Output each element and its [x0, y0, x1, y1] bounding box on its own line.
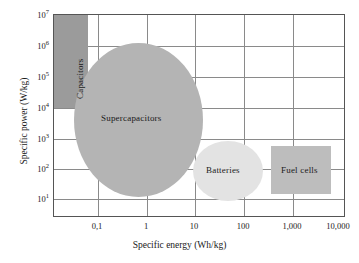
ytick-1e5: 105 [27, 70, 49, 82]
ytick-1e2-exponent: 2 [46, 162, 49, 169]
ytick-1e6-exponent: 6 [46, 39, 49, 46]
ytick-1e1-mantissa: 10 [37, 194, 46, 204]
plot-area: Capacitors Supercapacitors Batteries Fue… [53, 14, 345, 217]
gridline-y-1e6 [54, 46, 344, 47]
ytick-1e4-mantissa: 10 [37, 103, 46, 113]
region-label-batteries: Batteries [206, 165, 240, 175]
ytick-1e3: 103 [27, 132, 49, 144]
ytick-1e1: 101 [27, 192, 49, 204]
ytick-1e6: 106 [27, 39, 49, 51]
ytick-1e3-mantissa: 10 [37, 134, 46, 144]
xtick-100: 100 [237, 221, 250, 231]
ytick-1e5-mantissa: 10 [37, 72, 46, 82]
y-axis-title: Specific power (W/kg) [19, 51, 29, 191]
x-axis-title: Specific energy (Wh/kg) [0, 240, 359, 250]
ytick-1e4-exponent: 4 [46, 101, 49, 108]
ytick-1e7-exponent: 7 [46, 8, 49, 15]
region-label-capacitors: Capacitors [75, 59, 85, 100]
ytick-1e2: 102 [27, 162, 49, 174]
region-label-supercapacitors: Supercapacitors [101, 113, 161, 123]
gridline-y-1e1 [54, 199, 344, 200]
xtick-1000: 1,000 [282, 221, 301, 231]
region-label-fuelcells: Fuel cells [281, 165, 318, 175]
ytick-1e4: 104 [27, 101, 49, 113]
xtick-0.1: 0,1 [92, 221, 103, 231]
xtick-10: 10 [190, 221, 199, 231]
xtick-1: 1 [144, 221, 148, 231]
ragone-chart: Capacitors Supercapacitors Batteries Fue… [0, 0, 359, 263]
xtick-10000: 10,000 [326, 221, 349, 231]
ytick-1e7-mantissa: 10 [37, 10, 46, 20]
ytick-1e6-mantissa: 10 [37, 41, 46, 51]
ytick-1e3-exponent: 3 [46, 132, 49, 139]
ytick-1e2-mantissa: 10 [37, 164, 46, 174]
ytick-1e7: 107 [27, 8, 49, 20]
ytick-1e5-exponent: 5 [46, 70, 49, 77]
ytick-1e1-exponent: 1 [46, 192, 49, 199]
